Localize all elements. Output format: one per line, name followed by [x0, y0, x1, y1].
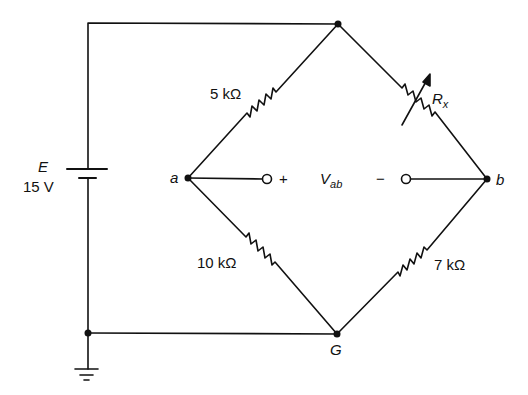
source-value-label: 15 V	[23, 178, 54, 195]
output-voltage-label: Vab	[320, 170, 342, 190]
resistor-7k-label: 7 kΩ	[434, 256, 465, 273]
bottom-wire	[88, 333, 337, 334]
resistor-5k-label: 5 kΩ	[210, 85, 241, 102]
node-b-label: b	[496, 171, 504, 188]
node-a-label: a	[170, 169, 178, 186]
circuit-svg: E 15 V 5 kΩ 10 kΩ 7 kΩ Rx a b G + − Vab	[0, 0, 528, 395]
resistor-rx-label: Rx	[432, 90, 449, 110]
resistor-10k-label: 10 kΩ	[197, 254, 237, 271]
node-a-dot	[185, 175, 192, 182]
source-symbol-label: E	[38, 158, 49, 175]
node-b-dot	[484, 176, 491, 183]
node-g-dot	[334, 331, 341, 338]
node-top-dot	[335, 21, 342, 28]
circuit-diagram: E 15 V 5 kΩ 10 kΩ 7 kΩ Rx a b G + − Vab	[0, 0, 528, 395]
terminal-minus[interactable]	[402, 175, 411, 184]
terminal-plus[interactable]	[263, 175, 272, 184]
output-minus-label: −	[376, 170, 385, 187]
node-bottom-left-dot	[85, 330, 92, 337]
lead-a	[188, 178, 263, 179]
resistor-rx-arm	[338, 24, 487, 179]
node-g-label: G	[330, 341, 342, 358]
output-plus-label: +	[279, 170, 288, 187]
